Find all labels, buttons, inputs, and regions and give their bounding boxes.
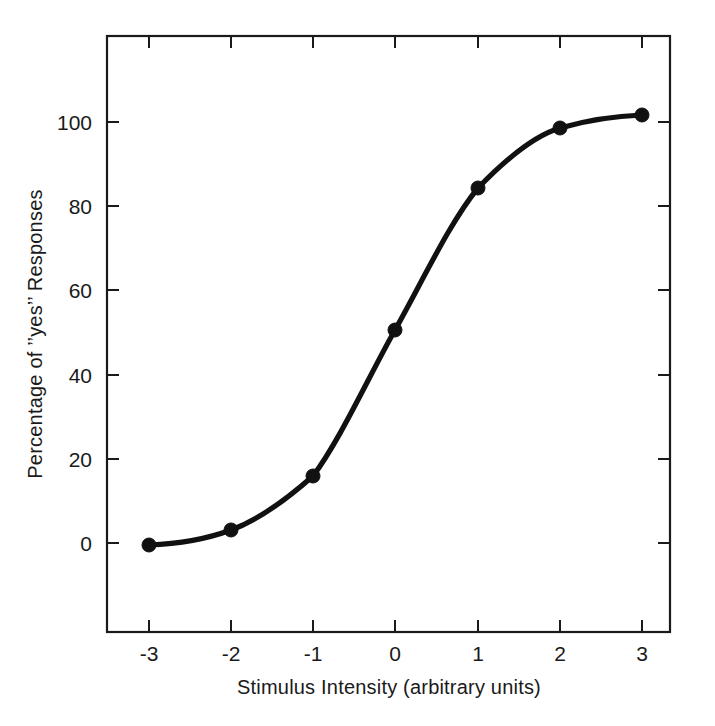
- x-tick-label--3: -3: [140, 642, 159, 665]
- data-point--3: [142, 538, 156, 552]
- y-tick-label-100: 100: [57, 111, 92, 134]
- figure-container: -3 -2 -1 0 1 2 3 0 20 40 60 80 100 Stimu…: [0, 0, 715, 726]
- data-point--2: [224, 523, 238, 537]
- y-axis-title: Percentage of ’’yes’’ Responses: [24, 189, 46, 478]
- data-point-2: [553, 121, 567, 135]
- y-tick-label-40: 40: [69, 364, 92, 387]
- x-tick-label-0: 0: [389, 642, 401, 665]
- x-tick-labels: -3 -2 -1 0 1 2 3: [140, 642, 648, 665]
- x-tick-label-1: 1: [472, 642, 484, 665]
- y-tick-label-20: 20: [69, 448, 92, 471]
- x-axis-ticks-top: [149, 36, 642, 48]
- y-axis-ticks-right: [658, 122, 670, 543]
- y-tick-label-0: 0: [80, 532, 92, 555]
- y-tick-label-80: 80: [69, 195, 92, 218]
- data-point-1: [471, 181, 485, 195]
- x-axis-title: Stimulus Intensity (arbitrary units): [237, 676, 541, 698]
- x-tick-label--1: -1: [304, 642, 323, 665]
- data-point-3: [635, 108, 649, 122]
- data-markers: [142, 108, 649, 552]
- x-tick-label-2: 2: [554, 642, 566, 665]
- x-axis-ticks: [149, 620, 642, 632]
- x-tick-label-3: 3: [636, 642, 648, 665]
- x-tick-label--2: -2: [222, 642, 241, 665]
- psychometric-function-chart: -3 -2 -1 0 1 2 3 0 20 40 60 80 100 Stimu…: [0, 0, 715, 726]
- y-tick-labels: 0 20 40 60 80 100: [57, 111, 92, 555]
- y-axis-ticks: [107, 122, 119, 543]
- data-point--1: [306, 469, 320, 483]
- data-point-0: [388, 323, 402, 337]
- y-tick-label-60: 60: [69, 279, 92, 302]
